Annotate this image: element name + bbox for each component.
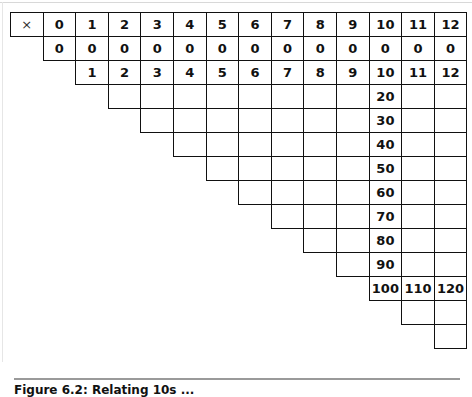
table-cell: 70 [369,204,403,229]
table-cell [401,108,435,133]
table-cell [108,84,142,109]
table-cell [271,204,305,229]
table-cell: 0 [43,36,77,61]
table-cell: 0 [369,36,403,61]
table-cell [303,180,337,205]
table-cell [434,108,468,133]
table-cell [303,228,337,253]
table-cell [206,84,240,109]
table-cell [434,228,468,253]
table-cell [336,108,370,133]
table-cell: 0 [140,36,174,61]
table-cell [140,108,174,133]
header-cell: 5 [206,12,240,37]
table-cell: 2 [108,60,142,85]
table-cell: 0 [401,36,435,61]
table-cell [303,204,337,229]
table-cell [173,84,207,109]
table-cell: 5 [206,60,240,85]
table-cell: 3 [140,60,174,85]
header-cell: 0 [43,12,77,37]
table-cell [238,180,272,205]
table-cell [434,204,468,229]
table-cell [173,108,207,133]
table-cell: 0 [108,36,142,61]
table-cell [434,84,468,109]
header-cell: 11 [401,12,435,37]
table-cell: 0 [336,36,370,61]
table-cell: 0 [238,36,272,61]
table-cell [303,156,337,181]
table-cell [173,132,207,157]
table-cell [401,156,435,181]
table-cell: 4 [173,60,207,85]
header-cell: 8 [303,12,337,37]
table-cell: 120 [434,276,468,301]
table-cell [336,84,370,109]
table-cell [434,252,468,277]
table-cell [401,204,435,229]
header-cell: 1 [75,12,109,37]
table-cell: 1 [75,60,109,85]
corner-times-symbol: × [10,12,44,37]
table-cell [271,156,305,181]
header-cell: 6 [238,12,272,37]
header-cell: 12 [434,12,468,37]
table-cell: 0 [75,36,109,61]
table-cell: 6 [238,60,272,85]
table-cell [271,180,305,205]
table-cell [271,132,305,157]
caption-rule [14,378,460,380]
page-left-border [2,2,3,362]
table-cell: 90 [369,252,403,277]
table-cell [434,300,468,325]
page-top-border [0,2,472,3]
table-cell [303,108,337,133]
header-cell: 3 [140,12,174,37]
table-cell: 0 [271,36,305,61]
table-cell: 60 [369,180,403,205]
table-cell [336,156,370,181]
table-cell [238,156,272,181]
table-cell: 40 [369,132,403,157]
table-cell [336,132,370,157]
table-cell [434,132,468,157]
table-cell [206,132,240,157]
table-cell: 9 [336,60,370,85]
table-cell [336,204,370,229]
table-cell [434,180,468,205]
table-cell: 7 [271,60,305,85]
figure-caption: Figure 6.2: Relating 10s ... [14,383,194,397]
header-cell: 4 [173,12,207,37]
table-cell: 11 [401,60,435,85]
table-cell: 20 [369,84,403,109]
table-cell: 50 [369,156,403,181]
table-cell [336,180,370,205]
table-cell: 100 [369,276,403,301]
table-cell: 30 [369,108,403,133]
table-cell: 0 [206,36,240,61]
table-cell: 12 [434,60,468,85]
table-cell [401,84,435,109]
table-cell [401,252,435,277]
table-cell [206,108,240,133]
header-cell: 2 [108,12,142,37]
header-cell: 7 [271,12,305,37]
table-cell [303,84,337,109]
header-cell: 9 [336,12,370,37]
table-cell [401,300,435,325]
table-cell [238,132,272,157]
table-cell: 8 [303,60,337,85]
table-cell [401,132,435,157]
table-cell: 0 [173,36,207,61]
table-cell [303,132,337,157]
table-cell [336,228,370,253]
table-cell [238,84,272,109]
table-cell [140,84,174,109]
table-cell [434,156,468,181]
table-cell [336,252,370,277]
header-cell: 10 [369,12,403,37]
table-cell: 80 [369,228,403,253]
table-cell [238,108,272,133]
table-cell: 0 [434,36,468,61]
